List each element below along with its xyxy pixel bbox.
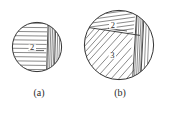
panel-a-far-hatch [57, 18, 61, 76]
figure-container: 2 [0, 0, 171, 113]
panel-a-region-label-2: 2 [30, 42, 34, 52]
panel-b-region-label-3: 3 [110, 50, 114, 60]
panel-a: 2 [8, 18, 62, 76]
panel-a-outline [12, 22, 61, 71]
panel-b-far-hatch [144, 4, 150, 86]
panel-b-region-label-2: 2 [111, 20, 115, 30]
panel-b-outline [84, 10, 153, 79]
panel-a-caption: (a) [28, 87, 50, 98]
cross-section-diagram: 2 [0, 0, 171, 113]
panel-b-caption: (b) [108, 87, 132, 98]
